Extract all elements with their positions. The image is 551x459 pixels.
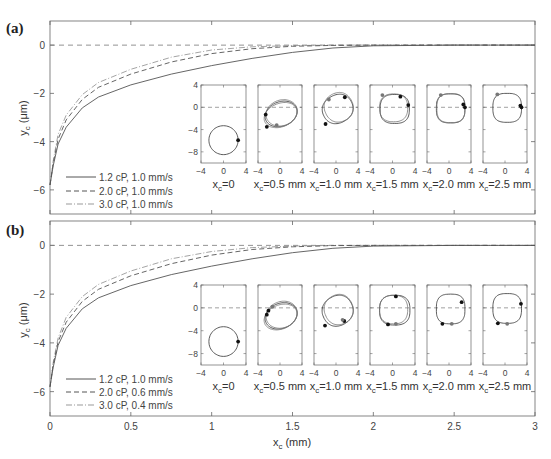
inset-y-tick-label: 4 xyxy=(193,280,198,290)
y-tick-label: 0 xyxy=(39,40,45,51)
trajectory-marker xyxy=(236,138,240,142)
inset-0: −40440−4−8xc=0 xyxy=(188,280,248,395)
trajectory-marker xyxy=(275,123,279,127)
inset-y-tick-label: −4 xyxy=(188,326,198,336)
inset-3: −404xc=1.5 mm xyxy=(365,285,419,395)
inset-4: −404xc=2.0 mm xyxy=(422,85,475,193)
inset-x-tick-label: 0 xyxy=(221,368,226,378)
inset-1: −404xc=0.5 mm xyxy=(253,85,306,193)
inset-label: xc=2.0 mm xyxy=(423,380,476,395)
trajectory-marker xyxy=(439,93,443,97)
y-tick-label: −4 xyxy=(34,338,46,349)
inset-frame xyxy=(201,285,246,365)
inset-label: xc=0 xyxy=(212,178,234,193)
inset-label: xc=2.5 mm xyxy=(479,380,532,395)
trajectory-marker xyxy=(441,322,445,326)
inset-y-tick-label: 4 xyxy=(193,80,198,90)
panel-label-a: (a) xyxy=(6,20,24,37)
x-tick-label: 0.5 xyxy=(124,421,138,432)
x-tick-label: 1 xyxy=(209,421,215,432)
inset-x-tick-label: −4 xyxy=(365,368,375,378)
svg-text:xc (mm): xc (mm) xyxy=(273,436,311,451)
x-tick-label: 2.5 xyxy=(447,421,461,432)
inset-x-tick-label: −4 xyxy=(196,368,206,378)
inset-y-tick-label: −4 xyxy=(188,125,198,135)
insets-b: −40440−4−8xc=0−404xc=0.5 mm−404xc=1.0 mm… xyxy=(188,280,531,395)
y-tick-label: −2 xyxy=(34,289,46,300)
inset-x-tick-label: 4 xyxy=(413,166,418,176)
trajectory-marker xyxy=(398,95,402,99)
inset-2: −404xc=1.0 mm xyxy=(309,285,362,395)
x-tick-label: 2 xyxy=(371,421,377,432)
inset-x-tick-label: 0 xyxy=(390,368,395,378)
inset-x-tick-label: 4 xyxy=(244,166,249,176)
y-axis-label-b: yc (μm) xyxy=(17,302,32,337)
inset-x-tick-label: 0 xyxy=(447,166,452,176)
inset-x-tick-label: 0 xyxy=(503,368,508,378)
inset-x-tick-label: −4 xyxy=(422,368,432,378)
inset-frame xyxy=(427,85,471,163)
trajectory-marker xyxy=(380,93,384,97)
inset-x-tick-label: 0 xyxy=(334,368,339,378)
y-tick-label: 0 xyxy=(39,240,45,251)
trajectory-marker xyxy=(496,321,500,325)
figure: (a) 0−2−4−6 −40440−4−8xc=0−404xc=0.5 mm−… xyxy=(0,0,551,459)
trajectory-marker xyxy=(270,305,274,309)
inset-0: −40440−4−8xc=0 xyxy=(188,80,248,193)
inset-label: xc=0.5 mm xyxy=(254,380,307,395)
inset-label: xc=1.5 mm xyxy=(366,178,419,193)
inset-label: xc=2.0 mm xyxy=(423,178,476,193)
trajectory-marker xyxy=(267,309,271,313)
trajectory-marker xyxy=(323,324,327,328)
inset-x-tick-label: 0 xyxy=(447,368,452,378)
inset-x-tick-label: −4 xyxy=(422,166,432,176)
inset-5: −404xc=2.5 mm xyxy=(478,85,531,193)
trajectory-marker xyxy=(324,122,328,126)
inset-y-tick-label: 0 xyxy=(193,102,198,112)
inset-3: −404xc=1.5 mm xyxy=(365,85,419,193)
svg-text:yc (μm): yc (μm) xyxy=(17,100,32,135)
inset-x-tick-label: 0 xyxy=(278,166,283,176)
svg-text:yc (μm): yc (μm) xyxy=(17,302,32,337)
inset-label: xc=1.5 mm xyxy=(366,380,419,395)
inset-1: −404xc=0.5 mm xyxy=(253,285,306,395)
trajectory-marker xyxy=(327,98,331,102)
inset-x-tick-label: −4 xyxy=(478,368,488,378)
inset-frame xyxy=(201,85,246,163)
inset-y-tick-label: −8 xyxy=(188,349,198,359)
trajectory-marker xyxy=(505,322,509,326)
legend-entry-3: 3.0 cP, 1.0 mm/s xyxy=(99,199,173,210)
inset-x-tick-label: −4 xyxy=(253,368,263,378)
inset-x-tick-label: 4 xyxy=(244,368,249,378)
inset-frame xyxy=(483,85,527,163)
panel-a: (a) 0−2−4−6 −40440−4−8xc=0−404xc=0.5 mm−… xyxy=(6,20,535,214)
inset-label: xc=0 xyxy=(212,380,234,395)
x-tick-label: 1.5 xyxy=(286,421,300,432)
inset-x-tick-label: −4 xyxy=(309,368,319,378)
inset-5: −404xc=2.5 mm xyxy=(478,285,531,395)
inset-x-tick-label: −4 xyxy=(253,166,263,176)
inset-label: xc=0.5 mm xyxy=(254,178,307,193)
x-tick-label: 3 xyxy=(532,421,538,432)
inset-x-tick-label: 4 xyxy=(469,166,474,176)
trajectory-marker xyxy=(519,302,523,306)
trajectory-marker xyxy=(394,295,398,299)
inset-x-tick-label: −4 xyxy=(365,166,375,176)
inset-label: xc=2.5 mm xyxy=(479,178,532,193)
inset-frame xyxy=(427,285,471,365)
trajectory-marker xyxy=(265,313,269,317)
legend-entry-1: 1.2 cP, 1.0 mm/s xyxy=(99,172,173,183)
y-tick-label: −6 xyxy=(34,387,46,398)
trajectory-marker xyxy=(386,323,390,327)
inset-x-tick-label: −4 xyxy=(196,166,206,176)
legend-entry-2: 2.0 cP, 1.0 mm/s xyxy=(99,186,173,197)
trajectory-marker xyxy=(394,322,398,326)
inset-x-tick-label: 4 xyxy=(356,166,361,176)
legend-entry-2: 2.0 cP, 0.6 mm/s xyxy=(99,387,173,398)
x-axis-label: xc (mm) xyxy=(273,436,311,451)
trajectory-marker xyxy=(341,318,345,322)
legend-entry-1: 1.2 cP, 1.0 mm/s xyxy=(99,374,173,385)
y-tick-label: −2 xyxy=(34,88,46,99)
legend-a: 1.2 cP, 1.0 mm/s 2.0 cP, 1.0 mm/s 3.0 cP… xyxy=(66,172,173,210)
legend-entry-3: 3.0 cP, 0.4 mm/s xyxy=(99,400,173,411)
